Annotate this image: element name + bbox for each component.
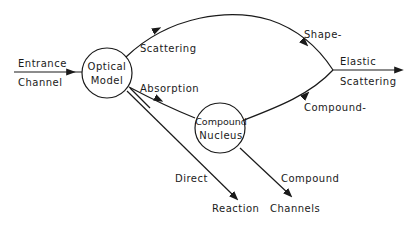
- channel-label: Channel: [18, 77, 63, 88]
- shape-label: Shape-: [304, 29, 342, 40]
- channels-label: Channels: [270, 203, 320, 214]
- scattering-label: Scattering: [140, 43, 197, 54]
- compound-elastic-label: Compound-: [304, 102, 366, 113]
- optical-model-label-2: Model: [84, 75, 130, 86]
- reaction-label: Reaction: [212, 203, 259, 214]
- elastic-scattering-label: Scattering: [340, 76, 397, 87]
- compound-nucleus-label-2: Nucleus: [193, 130, 249, 141]
- absorption-label: Absorption: [140, 83, 199, 94]
- optical-model-node: [82, 48, 132, 98]
- compound-label: Compound: [281, 173, 339, 184]
- entrance-label: Entrance: [18, 58, 67, 69]
- compound-nucleus-label-1: Compound: [193, 116, 249, 127]
- compound-nucleus-node: [195, 103, 245, 153]
- compound-channels-arrow: [240, 148, 290, 195]
- elastic-label: Elastic: [340, 56, 376, 67]
- optical-model-label-1: Optical: [84, 61, 130, 72]
- direct-label: Direct: [175, 173, 208, 184]
